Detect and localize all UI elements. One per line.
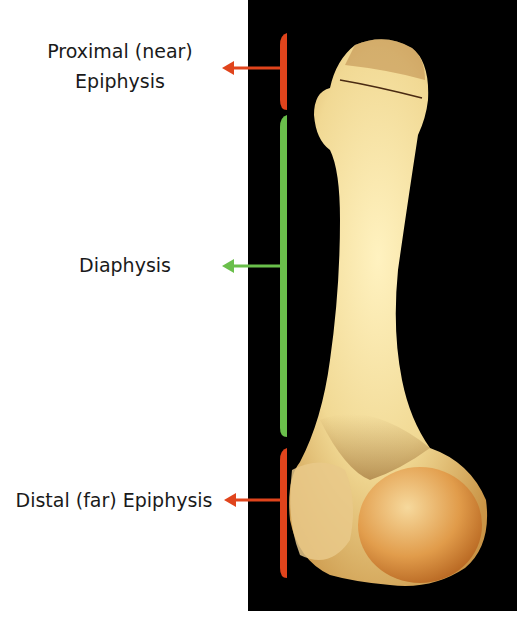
arrow-left-icon <box>224 493 236 507</box>
proximal-epiphysis-bracket <box>222 33 287 110</box>
diaphysis-bracket <box>222 115 287 437</box>
arrow-left-icon <box>222 259 234 273</box>
diaphysis-label: Diaphysis <box>50 250 200 280</box>
distal-epiphysis-bracket <box>224 448 287 578</box>
proximal-label-line2: Epiphysis <box>20 66 220 96</box>
proximal-epiphysis-label: Proximal (near) Epiphysis <box>20 36 220 96</box>
arrow-left-icon <box>222 61 234 75</box>
humerus-bone <box>289 39 487 586</box>
distal-epiphysis-label: Distal (far) Epiphysis <box>4 485 224 515</box>
proximal-label-line1: Proximal (near) <box>20 36 220 66</box>
